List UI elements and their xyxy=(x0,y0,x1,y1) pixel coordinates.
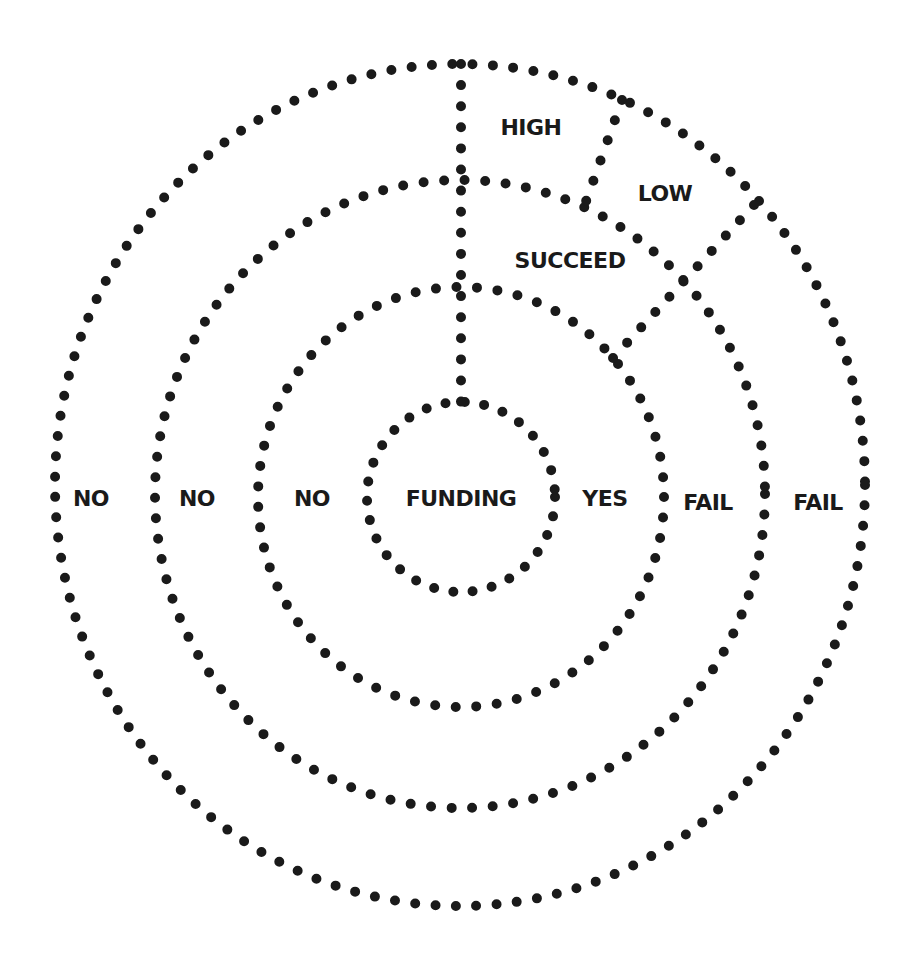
divider-high-low xyxy=(584,100,622,207)
label-no-middle: NO xyxy=(179,486,215,511)
label-funding: FUNDING xyxy=(406,486,517,511)
label-succeed: SUCCEED xyxy=(515,248,626,273)
label-no-outer: NO xyxy=(73,486,109,511)
label-high: HIGH xyxy=(500,115,561,140)
divider-succeed-fail xyxy=(613,205,754,358)
label-yes: YES xyxy=(581,486,627,511)
label-low: LOW xyxy=(638,181,693,206)
label-fail-middle: FAIL xyxy=(683,490,733,515)
label-no-inner: NO xyxy=(294,486,330,511)
funding-decision-diagram: FUNDING YES NO NO NO FAIL FAIL SUCCEED H… xyxy=(0,0,914,955)
label-fail-outer: FAIL xyxy=(793,490,843,515)
